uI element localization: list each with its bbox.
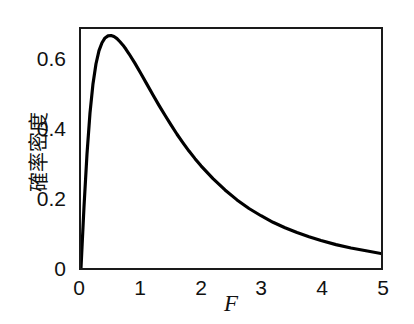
- chart-figure: 0 0.2 0.4 0.6 0 1 2 3 4 5 F 確率密度: [0, 0, 414, 324]
- x-tick-label-2: 2: [195, 277, 207, 298]
- density-curve-line: [81, 36, 381, 268]
- y-tick-label-0: 0: [26, 258, 66, 279]
- x-tick-label-1: 1: [134, 277, 146, 298]
- density-curve-svg: [81, 29, 381, 268]
- plot-area: [79, 27, 383, 270]
- x-tick-label-3: 3: [255, 277, 267, 298]
- x-tick-label-5: 5: [377, 277, 389, 298]
- x-tick-label-0: 0: [73, 277, 85, 298]
- y-tick-label-0-6: 0.6: [26, 48, 66, 69]
- x-axis-title: F: [224, 292, 238, 315]
- y-axis-title: 確率密度: [29, 112, 49, 192]
- x-tick-label-4: 4: [316, 277, 328, 298]
